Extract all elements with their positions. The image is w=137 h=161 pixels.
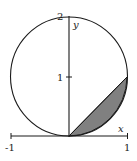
x-tick-label-1: 1 [124,142,130,153]
x-tick-label-neg1: -1 [5,142,15,153]
x-axis-label: x [118,123,124,134]
y-tick-label-2: 2 [57,11,63,22]
circle-region-diagram: y x 2 1 -1 1 [0,0,137,161]
y-tick-label-1: 1 [57,72,63,83]
y-axis-label: y [72,19,79,30]
